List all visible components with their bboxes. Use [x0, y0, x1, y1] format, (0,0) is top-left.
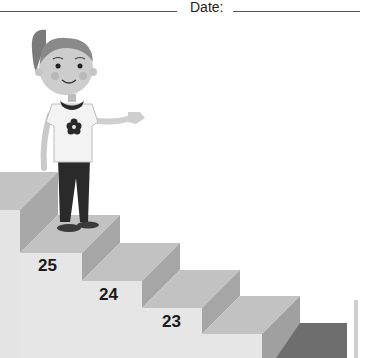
step-label-25: 25	[38, 256, 57, 276]
step-label-24: 24	[99, 285, 118, 305]
step-label-23: 23	[162, 312, 181, 332]
staircase-illustration	[0, 0, 367, 358]
